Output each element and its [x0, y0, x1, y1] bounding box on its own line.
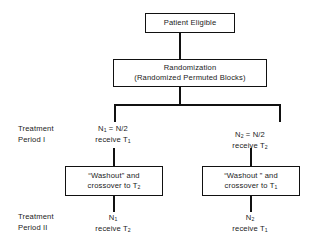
arm-right-p2-receive-subscript: 1: [265, 227, 268, 233]
arm-right-p1-n-subscript: 2: [241, 133, 244, 139]
connector-right-washout-to-result: [250, 196, 252, 212]
arm-left-p2-receive-subscript: 2: [128, 227, 131, 233]
arm-label-left-period-1: N1 = N/2 receive T1: [95, 124, 130, 146]
node-randomization-line1: Randomization: [164, 63, 217, 73]
node-washout-right-line2: crossover to T1: [225, 181, 278, 191]
node-washout-right-line1: “Washout ” and: [224, 171, 278, 181]
arm-right-p2-receive-text: receive T: [232, 224, 264, 233]
node-washout-left-line1: “Washout” and: [88, 171, 139, 181]
arm-left-p1-n-subscript: 1: [104, 127, 107, 133]
connector-split-right-branch: [279, 104, 281, 122]
connector-left-washout-to-result: [113, 196, 115, 212]
arm-left-p2-line1: N1: [95, 213, 130, 224]
node-randomization: Randomization (Randomized Permuted Block…: [113, 59, 267, 87]
arm-left-p2-receive-text: receive T: [95, 224, 127, 233]
node-washout-left-line2-text: crossover to T: [88, 181, 138, 190]
connector-split-left-branch: [114, 104, 116, 122]
arm-label-left-period-2: N1 receive T2: [95, 213, 130, 235]
arm-right-p1-line1: N2 = N/2: [232, 130, 267, 141]
arm-right-p1-receive-subscript: 2: [265, 144, 268, 150]
node-patient-eligible-label: Patient Eligible: [164, 18, 217, 28]
arm-right-p2-line2: receive T1: [232, 224, 267, 235]
row-label-period-1-line1: Treatment: [18, 124, 54, 135]
arm-right-p2-line1: N2: [232, 213, 267, 224]
node-randomization-line2: (Randomized Permuted Blocks): [134, 73, 245, 83]
row-label-period-2-line2: Period II: [18, 223, 54, 234]
arm-left-p2-line2: receive T2: [95, 224, 130, 235]
node-washout-right-line2-text: crossover to T: [225, 181, 275, 190]
node-washout-right-line2-subscript: 1: [275, 184, 278, 190]
connector-left-arm-to-washout: [113, 148, 115, 166]
arm-right-p1-receive-text: receive T: [232, 141, 264, 150]
node-washout-left-line2: crossover to T2: [88, 181, 141, 191]
row-label-treatment-period-2: Treatment Period II: [18, 212, 54, 234]
arm-right-p1-n-suffix: = N/2: [244, 130, 265, 139]
arm-left-p1-line2: receive T1: [95, 135, 130, 146]
arm-right-p2-n-subscript: 2: [251, 216, 254, 222]
row-label-treatment-period-1: Treatment Period I: [18, 124, 54, 146]
arm-left-p1-line1: N1 = N/2: [95, 124, 130, 135]
arm-left-p1-receive-subscript: 1: [128, 138, 131, 144]
arm-left-p1-receive-text: receive T: [95, 135, 127, 144]
arm-label-right-period-2: N2 receive T1: [232, 213, 267, 235]
node-washout-left: “Washout” and crossover to T2: [65, 166, 163, 196]
connector-eligible-to-randomization: [179, 33, 181, 59]
node-washout-right: “Washout ” and crossover to T1: [202, 166, 300, 196]
arm-left-p1-n-suffix: = N/2: [107, 124, 128, 133]
connector-split-horizontal-bar: [114, 104, 281, 106]
arm-label-right-period-1: N2 = N/2 receive T2: [232, 130, 267, 152]
arm-left-p2-n-subscript: 1: [114, 216, 117, 222]
node-washout-left-line2-subscript: 2: [138, 184, 141, 190]
row-label-period-1-line2: Period I: [18, 135, 54, 146]
node-patient-eligible: Patient Eligible: [145, 13, 235, 33]
row-label-period-2-line1: Treatment: [18, 212, 54, 223]
arm-right-p1-line2: receive T2: [232, 141, 267, 152]
connector-randomization-to-split: [179, 87, 181, 105]
crossover-trial-flow-diagram: Patient Eligible Randomization (Randomiz…: [0, 0, 327, 248]
